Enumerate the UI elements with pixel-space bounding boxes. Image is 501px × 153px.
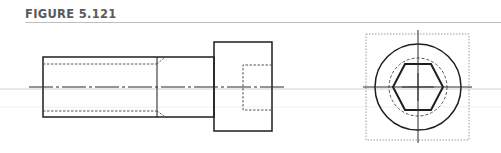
technical-drawing [0, 0, 501, 153]
thread-runout-bottom [157, 111, 164, 116]
end-view [363, 30, 472, 143]
thread-runout-top [157, 58, 164, 64]
side-view [29, 42, 287, 131]
